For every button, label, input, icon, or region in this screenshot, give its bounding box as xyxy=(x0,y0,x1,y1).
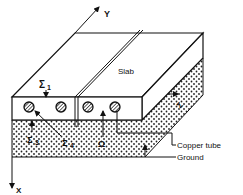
svg-text:1: 1 xyxy=(47,84,51,91)
svg-text:Σ: Σ xyxy=(62,138,68,148)
copper-tube-icon xyxy=(24,102,34,112)
svg-text:Σ: Σ xyxy=(39,79,45,90)
copper-tube-icon xyxy=(83,102,93,112)
copper-tube-icon xyxy=(110,102,120,112)
slab-label: Slab xyxy=(118,67,135,76)
x-axis: X xyxy=(12,157,22,195)
copper-tube-label: Copper tube xyxy=(177,141,222,150)
copper-tube-icon xyxy=(56,102,66,112)
svg-text:3: 3 xyxy=(35,139,39,146)
ground-label: Ground xyxy=(177,153,204,162)
y-axis: Y xyxy=(75,7,110,33)
x-axis-label: X xyxy=(16,186,22,195)
y-axis-label: Y xyxy=(104,9,110,19)
svg-text:Σ: Σ xyxy=(27,135,33,145)
slab-ground-diagram: Y X Slab Σ 1 Σ 3 xyxy=(0,0,243,195)
svg-text:Ω: Ω xyxy=(98,139,105,149)
svg-text:4: 4 xyxy=(70,142,74,149)
